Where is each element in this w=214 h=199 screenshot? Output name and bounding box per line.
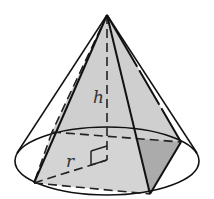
cone-pyramid-diagram: h r bbox=[0, 0, 214, 199]
height-label: h bbox=[93, 87, 104, 107]
radius-label: r bbox=[66, 151, 75, 171]
pyramid-back-face bbox=[52, 15, 181, 142]
